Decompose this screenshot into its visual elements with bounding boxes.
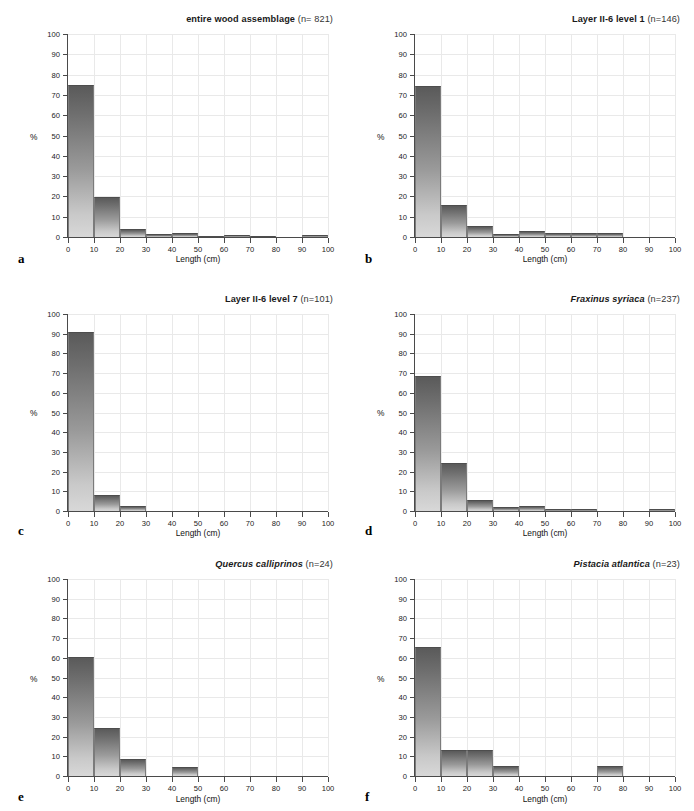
x-axis-tick (198, 238, 199, 243)
y-axis-tick-label: 70 (52, 90, 60, 99)
y-axis-tick (63, 491, 68, 492)
y-axis-tick-label: 90 (52, 329, 60, 338)
bar (467, 500, 493, 511)
x-axis-tick (597, 512, 598, 517)
bar (120, 759, 146, 776)
x-axis-tick (146, 512, 147, 517)
bar (467, 226, 493, 237)
x-axis-tick (224, 512, 225, 517)
x-axis-tick (623, 512, 624, 517)
x-axis-tick-label: 60 (567, 784, 575, 793)
y-axis-tick-label: 90 (399, 329, 407, 338)
x-axis-tick (597, 777, 598, 782)
x-axis-tick-label: 20 (463, 784, 471, 793)
y-axis-tick-label: 80 (399, 349, 407, 358)
y-axis-tick (63, 34, 68, 35)
y-axis-tick-label: 80 (399, 614, 407, 623)
panel-title-sample-size: (n=23) (653, 559, 680, 569)
x-axis-tick-label: 80 (272, 245, 280, 254)
y-axis-tick-label: 70 (399, 90, 407, 99)
x-axis-title: Length (cm) (68, 528, 328, 538)
x-axis-tick (649, 238, 650, 243)
x-axis-title: Length (cm) (415, 528, 675, 538)
gridline-vertical (675, 314, 676, 511)
x-axis-tick-label: 70 (246, 784, 254, 793)
x-axis-tick-label: 10 (437, 245, 445, 254)
x-axis-tick (302, 777, 303, 782)
x-axis-tick-label: 30 (142, 519, 150, 528)
x-axis-tick (597, 238, 598, 243)
x-axis-tick-label: 100 (322, 784, 335, 793)
y-axis-tick-label: 20 (52, 192, 60, 201)
y-axis-tick-label: 70 (399, 634, 407, 643)
y-axis-tick-label: 40 (52, 693, 60, 702)
x-axis-tick (649, 512, 650, 517)
y-axis-tick (410, 618, 415, 619)
x-axis-tick-label: 80 (619, 245, 627, 254)
x-axis-tick (68, 777, 69, 782)
y-axis-tick (63, 393, 68, 394)
x-axis-tick-label: 40 (515, 784, 523, 793)
y-axis-tick-label: 10 (52, 212, 60, 221)
x-axis-tick (675, 512, 676, 517)
y-axis-tick-label: 100 (47, 310, 60, 319)
plot-area-c: 0102030405060708090100010203040506070809… (68, 314, 328, 511)
x-axis-tick (250, 512, 251, 517)
bar (597, 766, 623, 776)
y-axis-tick-label: 20 (399, 192, 407, 201)
x-axis-tick (467, 238, 468, 243)
y-axis-tick (410, 54, 415, 55)
x-axis-tick-label: 100 (669, 519, 682, 528)
x-axis-tick-label: 60 (567, 245, 575, 254)
panel-title-a: entire wood assemblage (n= 821) (186, 14, 333, 24)
x-axis-tick-label: 40 (515, 245, 523, 254)
panel-title-f: Pistacia atlantica (n=23) (574, 559, 680, 569)
y-axis-tick-label: 30 (52, 712, 60, 721)
panel-title-sample-size: (n=24) (306, 559, 333, 569)
x-axis-tick-label: 10 (90, 784, 98, 793)
y-axis-tick-label: 20 (52, 467, 60, 476)
y-axis-tick (63, 618, 68, 619)
x-axis-tick-label: 90 (645, 245, 653, 254)
bar (94, 495, 120, 511)
y-axis-tick (410, 579, 415, 580)
y-axis-title: % (377, 132, 384, 142)
x-axis-tick-label: 100 (322, 519, 335, 528)
bar (68, 85, 94, 237)
y-axis-tick-label: 50 (399, 408, 407, 417)
x-axis-tick (328, 777, 329, 782)
x-axis-tick (675, 238, 676, 243)
y-axis-tick-label: 60 (399, 111, 407, 120)
y-axis-tick (410, 491, 415, 492)
y-axis-tick (410, 34, 415, 35)
x-axis-tick (224, 238, 225, 243)
x-axis-tick (415, 512, 416, 517)
x-axis-tick-label: 80 (619, 519, 627, 528)
y-axis-tick (410, 756, 415, 757)
x-axis-tick (519, 512, 520, 517)
x-axis-tick-label: 90 (645, 519, 653, 528)
y-axis-tick (63, 756, 68, 757)
x-axis-tick (146, 777, 147, 782)
y-axis-tick-label: 0 (403, 233, 407, 242)
panel-letter-d: d (365, 523, 372, 539)
panel-b: Layer II-6 level 1 (n=146)01020304050607… (347, 0, 694, 280)
y-axis-tick-label: 100 (47, 30, 60, 39)
x-axis-tick-label: 10 (437, 784, 445, 793)
y-axis-tick (410, 196, 415, 197)
y-axis-tick (410, 737, 415, 738)
panel-letter-f: f (365, 789, 369, 805)
x-axis-tick (545, 512, 546, 517)
x-axis-tick (146, 238, 147, 243)
x-axis-tick (415, 777, 416, 782)
bar (467, 750, 493, 776)
x-axis-tick (120, 777, 121, 782)
y-axis-tick (63, 678, 68, 679)
x-axis-tick-label: 90 (298, 784, 306, 793)
x-axis-tick (467, 512, 468, 517)
x-axis-tick-label: 40 (168, 519, 176, 528)
x-axis-tick-label: 0 (66, 784, 70, 793)
y-axis-tick-label: 90 (52, 594, 60, 603)
x-axis-tick-label: 0 (66, 245, 70, 254)
x-axis-tick-label: 20 (116, 519, 124, 528)
